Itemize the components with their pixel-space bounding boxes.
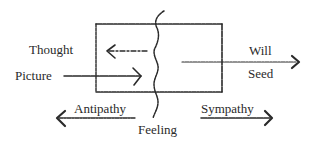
will-seed-arrow — [182, 56, 299, 68]
picture-arrow — [64, 68, 141, 85]
label-sympathy: Sympathy — [201, 102, 254, 115]
label-thought: Thought — [29, 43, 73, 56]
label-picture: Picture — [15, 69, 52, 82]
diagram-canvas: Thought Picture Will Seed Antipathy Symp… — [0, 0, 319, 144]
thought-arrow — [107, 45, 147, 58]
label-seed: Seed — [248, 67, 273, 80]
label-antipathy: Antipathy — [74, 102, 126, 115]
label-feeling: Feeling — [138, 123, 177, 136]
label-will: Will — [249, 44, 272, 57]
feeling-wavy-line — [153, 11, 164, 118]
